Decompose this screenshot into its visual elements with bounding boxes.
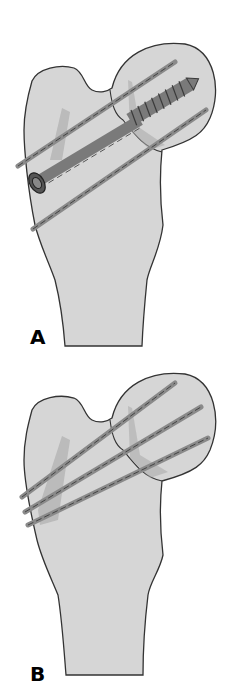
femur-illustration-b — [0, 350, 239, 698]
panel-b: B — [0, 350, 239, 698]
femur-illustration-a — [0, 0, 239, 350]
panel-label-b: B — [30, 664, 45, 684]
femur-outline — [24, 373, 216, 675]
panel-label-a: A — [30, 327, 45, 347]
panel-a: A — [0, 0, 239, 350]
